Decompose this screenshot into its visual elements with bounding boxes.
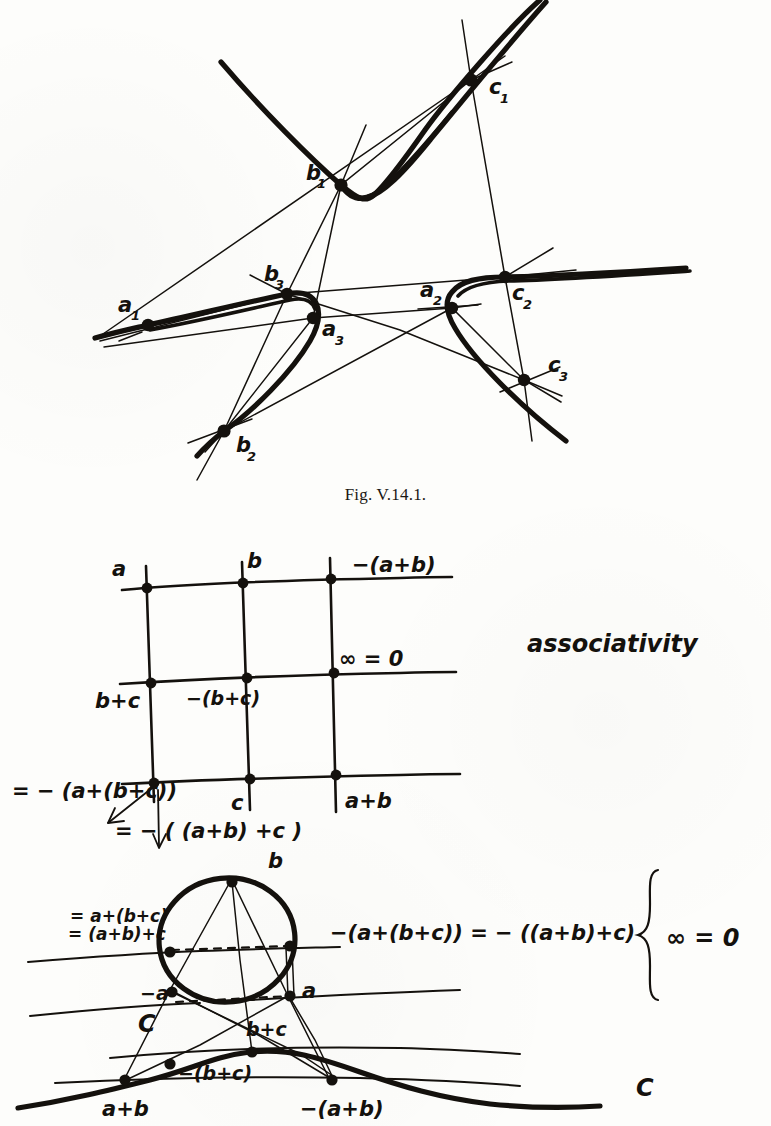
point-label-b2-sub: 2 [247,449,256,464]
circle-label-eq-top-2: = (a+b)+c [68,924,166,944]
scanned-page: a 1 a 2 a 3 b 1 b 2 b 3 [0,0,771,1126]
figure-v-14-1: a 1 a 2 a 3 b 1 b 2 b 3 [0,0,771,500]
grid-label-b-plus-c: b+c [95,689,141,713]
circle-label-c-upper: C [138,1010,156,1038]
node-a2 [446,302,458,314]
node-b-plus-c [246,1046,257,1057]
point-label-a3-sub: 3 [335,333,344,348]
figure-grid-equations-svg: = − (a+(b+c)) = − ( (a+b) +c ) [0,760,771,850]
node-c2 [499,271,511,283]
point-label-a3: a 3 [322,317,344,348]
grid-node-a [142,583,153,594]
circle-label-b-plus-c: b+c [246,1018,288,1040]
circle-label-minus-a-plus-b: −(a+b) [300,1097,384,1121]
circle-label-minus-a: −a [140,982,169,1004]
point-label-c2: c 2 [512,281,532,312]
circle-label-a: a [302,979,316,1003]
point-label-c2-sub: 2 [523,297,532,312]
point-label-c3: c 3 [548,353,568,384]
node-b [226,876,237,887]
figure-circle-construction: = a+(b+c) = (a+b)+c b −(a+(b+c)) = − ((a… [0,840,771,1126]
line-b2-a2 [205,308,561,452]
point-label-b1-sub: 1 [317,176,326,191]
point-label-b2: b 2 [236,433,256,464]
node-c1 [464,73,477,86]
curve-branch-upper-lip [341,2,546,198]
grid-node-b [238,578,249,589]
brace-label-infinity-zero: ∞ = 0 [666,924,740,952]
node-a1 [142,319,154,331]
grid-label-b: b [247,549,262,573]
curve-branch-right [447,268,686,441]
grid-label-minus-a-plus-b: −(a+b) [352,553,436,577]
line-horizontal-middle [30,1003,200,1016]
grid-node-b-plus-c [146,678,157,689]
node-b1 [334,178,347,191]
point-label-a1: a 1 [118,293,140,323]
grid-note-associativity: associativity [527,630,699,658]
point-label-c1: c 1 [489,75,509,106]
circle-label-b: b [268,849,283,873]
equation-a-plus-bc: = − (a+(b+c)) [12,779,177,803]
node-minus-a-plus-b [326,1074,337,1085]
node-eq-left [164,946,175,957]
curve-branch-upper-inner [344,112,452,197]
grid-row-top [122,577,452,590]
figure-circle-svg: = a+(b+c) = (a+b)+c b −(a+(b+c)) = − ((a… [0,840,771,1126]
grid-node-minus-ab [326,574,337,585]
figure-caption: Fig. V.14.1. [0,485,771,505]
right-brace [638,870,658,1000]
line-minus-abc-down [286,948,288,996]
grid-node-infinity [329,668,340,679]
circle-label-c-right: C [636,1074,654,1102]
grid-label-minus-b-plus-c: −(b+c) [186,687,260,709]
grid-label-infinity-zero: ∞ = 0 [339,647,403,671]
node-c3 [518,374,530,386]
figure-top-svg: a 1 a 2 a 3 b 1 b 2 b 3 [0,0,771,500]
curve-branch-upper [221,0,540,199]
figure-grid-equations: = − (a+(b+c)) = − ( (a+b) +c ) [0,760,771,850]
node-a [284,990,295,1001]
point-label-c3-sub: 3 [559,369,568,384]
point-label-c1-sub: 1 [500,91,509,106]
point-label-b3: b 3 [264,262,284,292]
grid-label-a: a [112,557,126,581]
circle-label-eq-top-1: = a+(b+c) [70,906,168,926]
circle-label-a-plus-b: a+b [102,1097,149,1121]
point-label-a1-sub: 1 [131,308,140,323]
node-b2 [217,424,230,437]
grid-row-middle [120,672,456,684]
point-label-b3-sub: 3 [275,277,284,292]
node-a-plus-b [119,1074,130,1085]
line-horizontal-middle-right [250,990,460,1000]
grid-node-minus-bc [242,673,253,684]
node-a3 [307,312,319,324]
node-minus-b-plus-c [164,1058,175,1069]
circle-label-minus-b-plus-c: −(b+c) [178,1062,252,1084]
node-minus-a-bc [284,940,295,951]
point-label-a2-sub: 2 [433,293,442,308]
circle-label-eq-right: −(a+(b+c)) = − ((a+b)+c) [330,921,635,945]
